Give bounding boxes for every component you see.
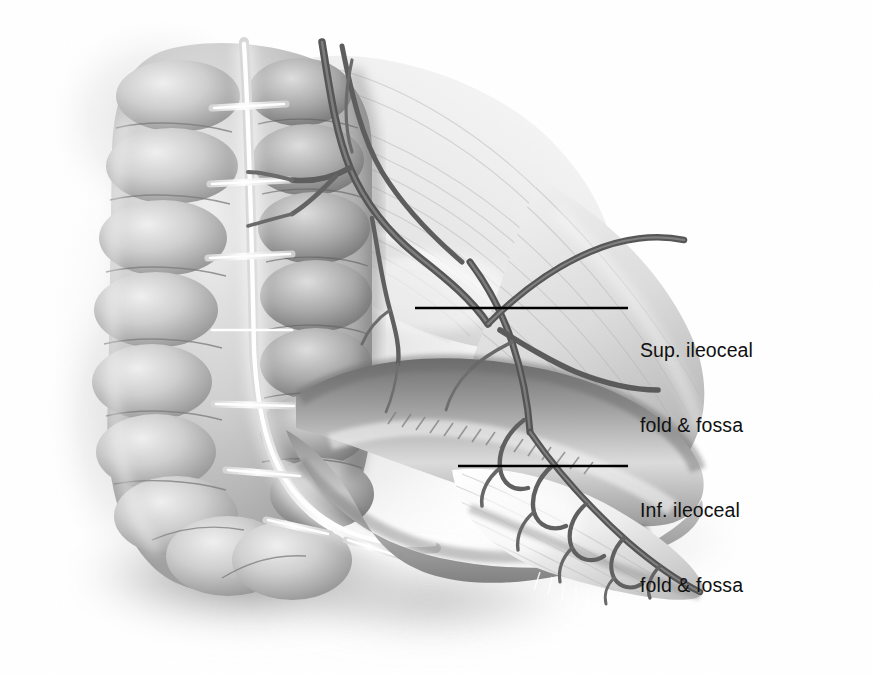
inferior-label-line1: Inf. ileoceal [640,498,743,523]
inferior-label-line2: fold & fossa [640,573,743,598]
superior-label-line2: fold & fossa [640,413,753,438]
superior-label-line1: Sup. ileoceal [640,338,753,363]
inferior-ileocecal-fold-label: Inf. ileoceal fold & fossa [640,448,743,648]
illustration-root: Sup. ileoceal fold & fossa Inf. ileoceal… [0,0,873,674]
